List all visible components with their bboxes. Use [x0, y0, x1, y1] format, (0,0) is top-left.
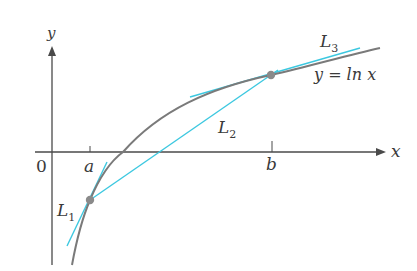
- point-b: [267, 71, 275, 79]
- L3-label: L3: [319, 31, 338, 55]
- ln-diagram: y x 0 a b L1 L2 L3 y = ln x: [0, 0, 417, 271]
- point-a: [86, 196, 94, 204]
- secant-line-L2: [90, 70, 278, 200]
- L2-label: L2: [217, 117, 236, 141]
- L1-label: L1: [56, 200, 75, 224]
- b-label: b: [266, 154, 277, 174]
- y-axis-label: y: [46, 24, 56, 42]
- origin-label: 0: [36, 156, 47, 176]
- a-label: a: [84, 156, 94, 176]
- x-axis-arrow-icon: [376, 148, 386, 156]
- x-axis-label: x: [391, 141, 401, 161]
- y-axis-arrow-icon: [48, 46, 56, 56]
- function-label: y = ln x: [313, 65, 376, 84]
